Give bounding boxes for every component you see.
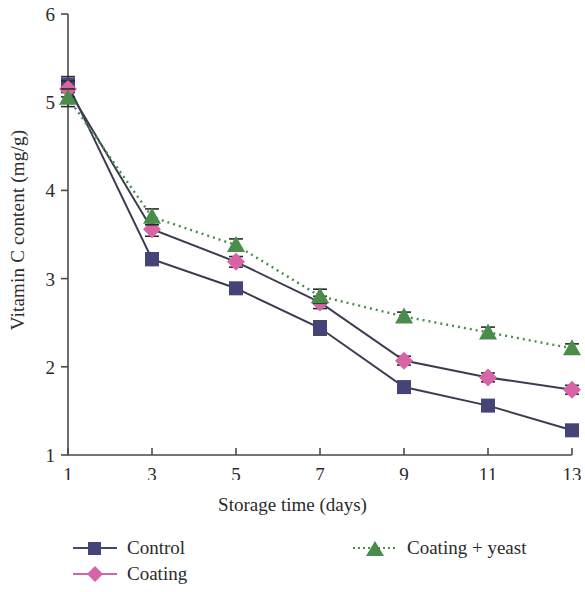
chart-legend: Control Coating Coating + yeast: [0, 536, 585, 592]
legend-swatch-triangle-icon: [352, 539, 398, 557]
data-point-square: [229, 281, 243, 295]
y-axis-tick-label: 5: [46, 92, 56, 113]
x-axis-tick-label: 1: [63, 464, 73, 480]
data-point-square: [145, 252, 159, 266]
y-axis-tick-label: 6: [46, 4, 56, 25]
data-point-triangle: [143, 208, 161, 224]
legend-swatch-square-icon: [72, 539, 118, 557]
x-axis-tick-label: 3: [147, 464, 157, 480]
data-point-diamond: [479, 368, 497, 386]
x-axis-tick-label: 11: [479, 464, 497, 480]
y-axis-tick-label: 4: [46, 180, 56, 201]
legend-label: Coating: [127, 564, 187, 583]
y-axis-tick-label: 2: [46, 357, 56, 378]
legend-swatch-diamond-icon: [72, 565, 118, 583]
x-axis-tick-label: 9: [399, 464, 409, 480]
data-point-square: [481, 399, 495, 413]
data-point-diamond: [563, 381, 581, 399]
data-point-diamond: [395, 352, 413, 370]
legend-item-coating-plus-yeast: Coating + yeast: [352, 538, 526, 557]
y-axis-tick-label: 1: [46, 445, 56, 466]
legend-label: Coating + yeast: [407, 538, 526, 557]
series-line-coating: [68, 89, 572, 390]
x-axis-label: Storage time (days): [0, 494, 585, 516]
legend-item-control: Control: [72, 538, 185, 557]
y-axis-tick-label: 3: [46, 269, 56, 290]
data-point-square: [565, 423, 579, 437]
data-point-square: [397, 380, 411, 394]
plot-area: 123456135791113: [0, 0, 585, 480]
legend-item-coating: Coating: [72, 564, 187, 583]
x-axis-tick-label: 13: [563, 464, 582, 480]
data-point-diamond: [227, 253, 245, 271]
legend-label: Control: [127, 538, 185, 557]
axis-spine: [68, 14, 572, 455]
x-axis-tick-label: 7: [315, 464, 325, 480]
data-point-triangle: [395, 308, 413, 324]
vitamin-c-line-chart: Vitamin C content (mg/g) 123456135791113…: [0, 0, 585, 592]
data-point-square: [313, 321, 327, 335]
x-axis-tick-label: 5: [231, 464, 241, 480]
